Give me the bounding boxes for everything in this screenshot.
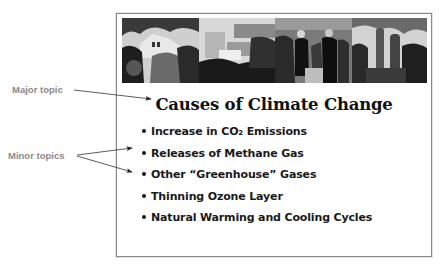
minor-topic-arrow-icon xyxy=(77,156,132,172)
callout-arrows xyxy=(0,0,439,267)
major-topic-arrow-icon xyxy=(74,90,151,99)
minor-topic-arrow-icon xyxy=(77,148,132,155)
